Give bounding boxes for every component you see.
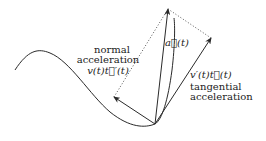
- tangential-label-line2: acceleration: [190, 92, 253, 102]
- acceleration-diagram: normal acceleration v(t)t⃗′(t) a⃗(t) v′(…: [0, 0, 266, 141]
- normal-formula: v(t)t⃗′(t): [78, 66, 138, 76]
- normal-label-line2: acceleration: [72, 55, 144, 65]
- acceleration-vector-label: a⃗(t): [165, 38, 189, 48]
- tangential-formula: v′(t)t⃗(t): [190, 70, 232, 80]
- normal-vector: [114, 97, 155, 124]
